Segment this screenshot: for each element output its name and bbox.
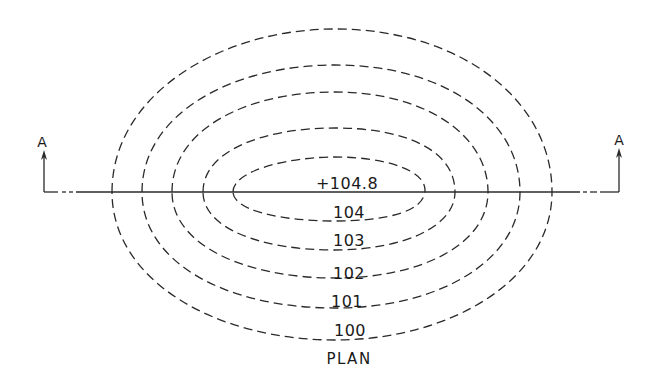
summit-elevation-label: +104.8 [316,174,378,193]
contour-label-102: 102 [333,264,365,283]
contour-label-104: 104 [333,203,365,222]
section-label-left: A [37,134,47,150]
contour-label-101: 101 [331,292,363,311]
section-label-right: A [614,132,624,148]
contour-label-100: 100 [334,321,366,340]
contour-diagram: A A +104.8 104 103 102 101 100 PLAN [0,0,653,387]
contour-label-103: 103 [333,231,365,250]
plan-title: PLAN [326,350,371,368]
